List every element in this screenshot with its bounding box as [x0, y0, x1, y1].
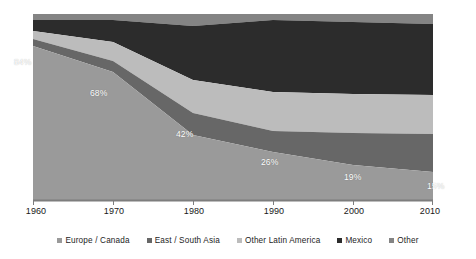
legend-swatch-icon — [147, 238, 152, 243]
x-tick-label-2000: 2000 — [344, 206, 364, 216]
value-label-1980: 42% — [176, 129, 193, 139]
value-label-1960: 84% — [14, 57, 31, 67]
legend-item-other[interactable]: Other — [389, 237, 418, 245]
legend-label-mexico: Mexico — [345, 237, 372, 245]
legend-swatch-icon — [237, 238, 242, 243]
legend-item-mexico[interactable]: Mexico — [337, 237, 372, 245]
legend-swatch-icon — [389, 238, 394, 243]
legend-swatch-icon — [57, 238, 62, 243]
legend-item-other-latin-america[interactable]: Other Latin America — [237, 237, 320, 245]
legend: Europe / Canada East / South Asia Other … — [0, 234, 476, 248]
value-label-2010: 15% — [427, 181, 444, 191]
legend-label-east-south-asia: East / South Asia — [155, 237, 220, 245]
legend-item-europe-canada[interactable]: Europe / Canada — [57, 237, 129, 245]
legend-label-other: Other — [397, 237, 418, 245]
legend-item-east-south-asia[interactable]: East / South Asia — [147, 237, 220, 245]
x-tick-label-1980: 1980 — [184, 206, 204, 216]
x-axis — [33, 200, 433, 205]
x-tick-label-2010: 2010 — [420, 206, 440, 216]
value-label-1990: 26% — [261, 157, 278, 167]
plot-area — [0, 0, 476, 259]
value-label-1970: 68% — [90, 88, 107, 98]
legend-label-other-latin-america: Other Latin America — [245, 237, 320, 245]
value-label-2000: 19% — [344, 172, 361, 182]
stacked-area-chart: 1960 1970 1980 1990 2000 2010 84% 68% 42… — [0, 0, 476, 259]
x-tick-label-1960: 1960 — [26, 206, 46, 216]
legend-swatch-icon — [337, 238, 342, 243]
x-tick-label-1970: 1970 — [104, 206, 124, 216]
series-bands — [33, 14, 433, 200]
legend-label-europe-canada: Europe / Canada — [65, 237, 129, 245]
x-tick-label-1990: 1990 — [264, 206, 284, 216]
